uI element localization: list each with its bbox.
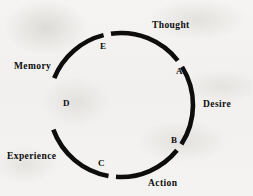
segment-label-memory: Memory — [14, 62, 51, 72]
segment-label-desire: Desire — [203, 100, 231, 110]
arc-memory — [53, 130, 108, 176]
segment-label-experience: Experience — [7, 152, 56, 162]
arc-action — [181, 67, 193, 144]
node-label-a: A — [176, 67, 183, 76]
node-label-d: D — [63, 99, 70, 108]
node-label-c: C — [98, 159, 105, 168]
arc-desire — [111, 33, 178, 61]
arc-experience — [116, 150, 177, 177]
segment-label-action: Action — [148, 179, 177, 189]
diagram-canvas: Thought Desire Action Experience Memory … — [0, 0, 253, 196]
node-label-e: E — [100, 42, 106, 51]
arc-thought — [54, 35, 103, 78]
segment-label-thought: Thought — [152, 21, 190, 31]
cycle-diagram-svg — [0, 0, 253, 196]
node-label-b: B — [171, 136, 177, 145]
